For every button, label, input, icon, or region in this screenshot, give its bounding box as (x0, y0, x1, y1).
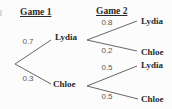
probability-tree-diagram: Game 1 Game 2 0.7 Lydia 0.3 Chloe 0.8 Ly… (0, 0, 172, 109)
outcome-label-game2b-chloe: Chloe (141, 94, 164, 104)
outcome-label-game2a-chloe: Chloe (141, 47, 164, 57)
probability-label-game2b-lydia: 0.5 (99, 63, 115, 72)
probability-label-game2a-chloe: 0.2 (99, 46, 115, 55)
probability-label-game2b-chloe: 0.5 (99, 92, 115, 101)
outcome-label-game2b-lydia: Lydia (141, 60, 163, 70)
outcome-label-game2a-lydia: Lydia (141, 16, 163, 26)
probability-label-game1-lydia: 0.7 (20, 37, 36, 46)
outcome-label-game1-lydia: Lydia (55, 32, 77, 42)
game1-header: Game 1 (20, 7, 51, 17)
game2-header: Game 2 (96, 6, 127, 16)
probability-label-game1-chloe: 0.3 (20, 74, 36, 83)
outcome-label-game1-chloe: Chloe (53, 79, 76, 89)
probability-label-game2a-lydia: 0.8 (99, 18, 115, 27)
